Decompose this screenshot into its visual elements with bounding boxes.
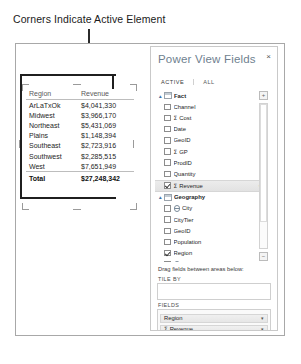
field-tree-item-label: GP (179, 149, 265, 155)
collapse-all-button[interactable]: − (259, 252, 268, 261)
checkbox-icon[interactable] (164, 159, 171, 166)
checkbox-icon[interactable] (164, 205, 171, 212)
active-edge-left-middle (19, 140, 20, 148)
total-value: $27,248,342 (73, 172, 134, 184)
cell-revenue: $4,041,330 (73, 100, 134, 111)
field-pill-revenue[interactable]: ΣRevenue▾ (160, 325, 268, 332)
field-tree-item-label: Fact (174, 93, 265, 99)
power-view-fields-panel: Power View Fields × ACTIVE ALL ▴FactChan… (150, 46, 278, 331)
cell-revenue: $5,431,069 (73, 120, 134, 130)
field-tree-scrollbar[interactable] (259, 103, 268, 249)
field-tree-item-label: GeoID (174, 137, 266, 143)
field-tree-item-population[interactable]: Population (155, 236, 265, 247)
table-row[interactable]: Southwest$2,285,515 (26, 151, 134, 161)
fields-label: FIELDS (151, 300, 277, 309)
table-icon (164, 92, 172, 99)
field-tree-item-citytier[interactable]: CityTier (155, 214, 265, 225)
chevron-down-icon[interactable]: ▾ (261, 315, 264, 321)
field-tree: ▴FactChannelΣCostDateGeoIDΣGPProdIDQuant… (155, 90, 265, 262)
cell-revenue: $2,285,515 (73, 151, 134, 161)
active-edge-bottom-middle (73, 209, 81, 210)
table-row[interactable]: West$7,651,949 (26, 161, 134, 172)
field-tree-item-label: Date (174, 126, 266, 132)
tab-all[interactable]: ALL (200, 78, 217, 86)
fields-area[interactable]: Region▾ΣRevenue▾ (157, 309, 271, 331)
sigma-icon: Σ (174, 115, 178, 121)
table-row[interactable]: ArLaTxOk$4,041,330 (26, 100, 134, 111)
field-tree-item-label: Region (174, 250, 266, 256)
field-tree-item-label: Population (174, 239, 266, 245)
field-tree-item-label: Quantity (174, 171, 266, 177)
field-tree-item-date[interactable]: Date (155, 124, 265, 135)
field-tree-item-revenue[interactable]: ΣRevenue▾ (155, 180, 265, 192)
checkbox-icon[interactable] (164, 261, 171, 262)
field-tree-item-label: City (182, 205, 265, 211)
chevron-down-icon[interactable]: ▾ (261, 326, 264, 331)
cell-region: Plains (26, 131, 73, 141)
field-tree-item-state[interactable]: State (155, 259, 265, 262)
cell-region: Southeast (26, 141, 73, 151)
field-tree-item-geoid[interactable]: GeoID (155, 135, 265, 146)
callout-bracket-top-right-stub (112, 74, 114, 89)
cell-revenue: $2,723,916 (73, 141, 134, 151)
table-row[interactable]: Southeast$2,723,916 (26, 141, 134, 151)
checkbox-icon[interactable] (164, 239, 171, 246)
tab-active[interactable]: ACTIVE (158, 78, 187, 86)
field-tree-item-cost[interactable]: ΣCost (155, 112, 265, 123)
globe-icon (174, 261, 181, 262)
checkbox-checked-icon[interactable] (164, 250, 171, 257)
field-pill-label: Region (164, 315, 261, 321)
panel-title: Power View Fields (158, 52, 271, 66)
column-header-revenue[interactable]: Revenue (73, 88, 134, 100)
field-pill-region[interactable]: Region▾ (160, 314, 268, 324)
sigma-icon: Σ (174, 183, 178, 189)
checkbox-checked-icon[interactable] (164, 182, 171, 189)
sigma-icon: Σ (174, 149, 178, 155)
field-tree-item-label: State (182, 261, 265, 262)
checkbox-icon[interactable] (164, 137, 171, 144)
field-tree-item-gp[interactable]: ΣGP (155, 146, 265, 157)
field-tree-table-geography[interactable]: ▴Geography (155, 192, 265, 203)
cell-region: Southwest (26, 151, 73, 161)
chevron-up-icon[interactable]: ▴ (157, 194, 164, 200)
field-tree-item-region[interactable]: Region (155, 248, 265, 259)
cell-region: Northeast (26, 120, 73, 130)
field-tree-item-label: Cost (179, 115, 265, 121)
checkbox-icon[interactable] (164, 216, 171, 223)
field-tree-item-label: CityTier (174, 217, 266, 223)
tile-by-label: TILE BY (151, 274, 277, 283)
table-total-row: Total$27,248,342 (26, 172, 134, 184)
expand-all-button[interactable]: + (259, 91, 268, 100)
table-element: Region Revenue ArLaTxOk$4,041,330Midwest… (26, 88, 134, 183)
tile-by-area[interactable] (157, 283, 271, 300)
cell-region: West (26, 161, 73, 172)
field-tree-item-quantity[interactable]: Quantity (155, 168, 265, 179)
field-tree-item-city[interactable]: City (155, 203, 265, 214)
region-revenue-table[interactable]: Region Revenue ArLaTxOk$4,041,330Midwest… (26, 88, 134, 202)
field-tree-scroll-thumb[interactable] (260, 104, 267, 222)
field-tree-wrapper: ▴FactChannelΣCostDateGeoIDΣGPProdIDQuant… (155, 90, 273, 262)
sigma-icon: Σ (164, 326, 168, 331)
panel-header: Power View Fields × (151, 47, 277, 77)
field-tree-item-prodid[interactable]: ProdID (155, 157, 265, 168)
checkbox-icon[interactable] (164, 228, 171, 235)
table-row[interactable]: Midwest$3,966,170 (26, 110, 134, 120)
chevron-up-icon[interactable]: ▴ (157, 93, 164, 99)
field-tree-item-label: Geography (174, 194, 265, 200)
field-tree-item-geoid[interactable]: GeoID (155, 225, 265, 236)
checkbox-icon[interactable] (164, 126, 171, 133)
field-tree-item-label: GeoID (174, 228, 266, 234)
checkbox-icon[interactable] (164, 148, 171, 155)
field-tree-table-fact[interactable]: ▴Fact (155, 90, 265, 101)
field-pill-label: Revenue (170, 326, 261, 331)
active-corner-bottom-left (22, 203, 29, 210)
close-icon[interactable]: × (266, 53, 271, 61)
checkbox-icon[interactable] (164, 115, 171, 122)
table-row[interactable]: Northeast$5,431,069 (26, 120, 134, 130)
checkbox-icon[interactable] (164, 171, 171, 178)
total-label: Total (26, 172, 73, 184)
table-row[interactable]: Plains$1,148,394 (26, 131, 134, 141)
checkbox-icon[interactable] (164, 104, 171, 111)
column-header-region[interactable]: Region (26, 88, 73, 100)
field-tree-item-channel[interactable]: Channel (155, 101, 265, 112)
